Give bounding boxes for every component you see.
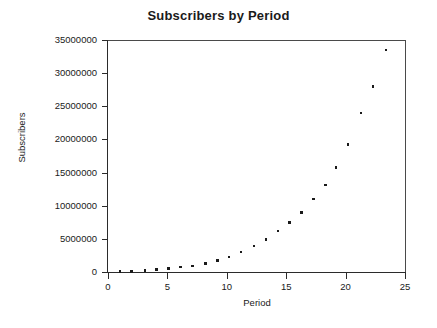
axis-top-spine (108, 40, 406, 41)
data-point (130, 270, 133, 273)
x-tick-mark (405, 273, 406, 279)
plot-area (108, 40, 405, 272)
axis-right-spine (405, 40, 406, 273)
x-tick-mark (286, 273, 287, 279)
data-point (347, 143, 350, 146)
data-point (385, 49, 388, 52)
x-tick-mark (167, 273, 168, 279)
data-point (265, 238, 268, 241)
data-point (360, 112, 363, 115)
y-tick-label: 0 (7, 266, 97, 277)
x-tick-mark (346, 273, 347, 279)
x-tick-label: 20 (331, 281, 361, 292)
y-tick-mark (102, 173, 108, 174)
data-point (119, 270, 122, 273)
y-axis-label: Subscribers (16, 93, 27, 183)
x-tick-label: 5 (152, 281, 182, 292)
data-point (191, 265, 194, 268)
data-point (228, 256, 231, 259)
chart-title: Subscribers by Period (0, 8, 437, 23)
y-tick-label: 10000000 (7, 200, 97, 211)
y-tick-mark (102, 239, 108, 240)
data-point (324, 184, 327, 187)
data-point (144, 269, 147, 272)
y-tick-label: 35000000 (7, 34, 97, 45)
y-tick-label: 5000000 (7, 233, 97, 244)
data-point (167, 267, 170, 270)
data-point (277, 230, 280, 233)
x-tick-mark (227, 273, 228, 279)
data-point (204, 262, 207, 265)
data-point (335, 166, 338, 169)
data-point (288, 221, 291, 224)
x-axis-label: Period (108, 297, 406, 308)
x-tick-label: 15 (271, 281, 301, 292)
y-tick-mark (102, 40, 108, 41)
y-tick-mark (102, 106, 108, 107)
data-point (253, 245, 256, 248)
y-tick-label: 30000000 (7, 67, 97, 78)
x-tick-label: 25 (390, 281, 420, 292)
data-point (312, 198, 315, 201)
x-tick-label: 10 (212, 281, 242, 292)
data-point (155, 268, 158, 271)
y-tick-mark (102, 139, 108, 140)
x-tick-label: 0 (93, 281, 123, 292)
y-tick-mark (102, 206, 108, 207)
data-point (216, 259, 219, 262)
data-point (300, 211, 303, 214)
x-axis-line (108, 272, 406, 273)
data-point (240, 251, 243, 254)
y-tick-mark (102, 73, 108, 74)
x-tick-mark (108, 273, 109, 279)
chart-figure: Subscribers by Period 050000001000000015… (0, 0, 437, 328)
data-point (372, 85, 375, 88)
data-point (179, 266, 182, 269)
